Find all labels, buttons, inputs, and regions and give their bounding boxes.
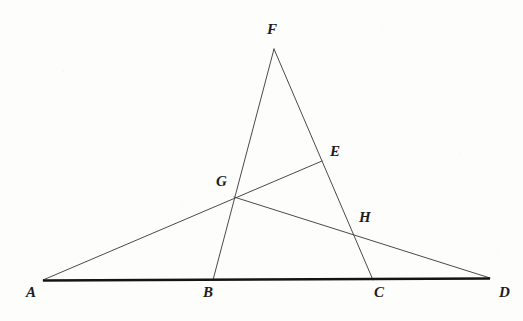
vertex-label-f: F xyxy=(267,22,277,37)
vertex-label-h: H xyxy=(359,210,371,225)
line-A-to-E xyxy=(43,161,322,280)
geometry-figure: A B C D E F G H xyxy=(0,0,523,321)
vertex-label-c: C xyxy=(374,285,384,300)
vertex-label-a: A xyxy=(26,285,36,300)
vertex-label-e: E xyxy=(330,144,340,159)
line-F-to-B xyxy=(213,49,274,280)
vertex-label-b: B xyxy=(203,285,213,300)
line-F-to-C xyxy=(274,49,373,280)
vertex-label-d: D xyxy=(499,285,510,300)
vertex-label-g: G xyxy=(216,174,227,189)
geometry-canvas xyxy=(0,0,523,321)
baseline-AD xyxy=(43,279,490,281)
